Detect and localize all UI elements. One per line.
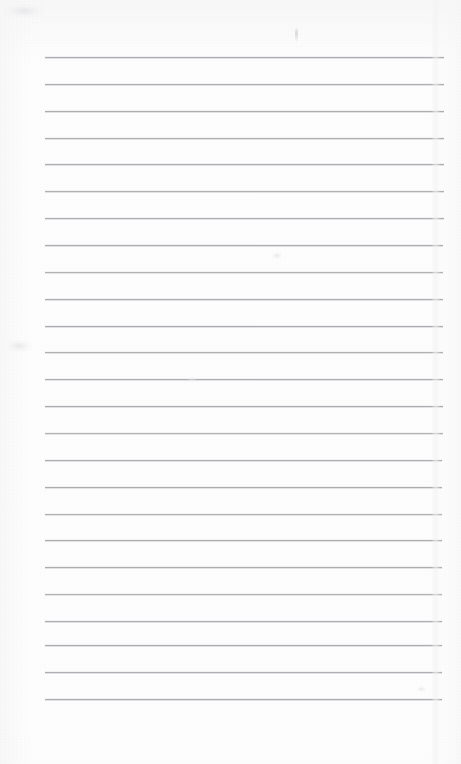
rule-line xyxy=(45,699,442,700)
rule-line xyxy=(45,191,444,192)
rule-line xyxy=(45,245,443,246)
rule-line xyxy=(45,487,442,488)
rule-line xyxy=(45,567,442,568)
rule-line xyxy=(45,218,444,219)
rule-line xyxy=(45,164,444,165)
rule-line xyxy=(45,621,442,622)
scanned-page: Blank ruled notebook page (scan) xyxy=(0,0,461,764)
rule-line xyxy=(45,406,443,407)
rule-line xyxy=(45,352,443,353)
rule-line xyxy=(45,84,444,85)
ruled-lines-group xyxy=(0,0,461,764)
rule-line xyxy=(45,272,443,273)
rule-line xyxy=(45,460,442,461)
rule-line xyxy=(45,594,442,595)
rule-line xyxy=(45,672,442,673)
rule-line xyxy=(45,326,443,327)
rule-line xyxy=(45,540,442,541)
rule-line xyxy=(45,299,443,300)
rule-line xyxy=(45,111,444,112)
rule-line xyxy=(45,514,442,515)
rule-line xyxy=(45,138,444,139)
rule-line xyxy=(45,379,443,380)
rule-line xyxy=(45,57,444,58)
rule-line xyxy=(45,433,443,434)
rule-line xyxy=(45,645,442,646)
